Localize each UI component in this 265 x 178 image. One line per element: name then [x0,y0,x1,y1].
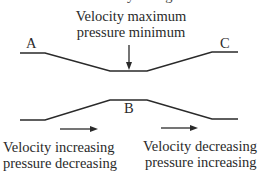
label-c: C [220,35,230,51]
annotation-left-line2: pressure decreasing [3,155,117,171]
annotation-top-line1: Velocity maximum [73,8,189,24]
annotation-right-line2: pressure increasing [145,154,257,170]
right-arrow-icon [161,125,198,131]
annotation-right-line1: Velocity decreasing [143,138,257,154]
annotation-left-line1: Velocity increasing [3,139,115,155]
right-arrow-icon [60,126,98,132]
down-arrow-icon [126,45,132,70]
label-a: A [26,35,36,51]
annotation-top-line2: pressure minimum [73,24,189,40]
label-b: B [124,100,134,116]
